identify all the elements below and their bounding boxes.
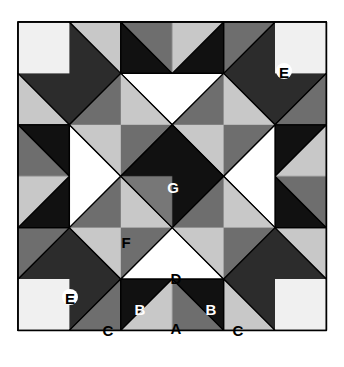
label-c-right: C bbox=[233, 322, 244, 339]
label-b-right: B bbox=[206, 301, 217, 318]
label-c-left: C bbox=[103, 322, 114, 339]
label-b-left: B bbox=[135, 301, 146, 318]
label-e-bottom: E bbox=[65, 290, 75, 307]
label-e-top: E bbox=[279, 64, 289, 81]
label-f: F bbox=[121, 234, 130, 251]
label-d: D bbox=[171, 270, 182, 287]
quilt-block-diagram: E G F D E B B A C C bbox=[0, 0, 344, 367]
label-a: A bbox=[171, 320, 182, 337]
label-g: G bbox=[167, 179, 179, 196]
